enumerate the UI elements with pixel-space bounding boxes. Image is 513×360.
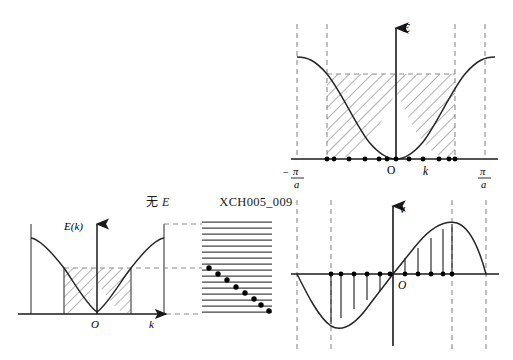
axis-label-k: k (423, 165, 429, 177)
drop-lines-negative (331, 274, 380, 324)
pi-numerator: π (480, 166, 486, 177)
origin-label-O: O (387, 164, 395, 176)
axis-label-E: E (402, 22, 410, 34)
panel-group-velocity: v O (283, 196, 509, 356)
occupied-region-hatch (327, 74, 455, 159)
origin-label-O: O (398, 279, 407, 291)
minus-sign: − (283, 167, 289, 178)
panel-band-and-level-ladder: E(k) O k (6, 206, 278, 356)
axis-label-v: v (400, 203, 406, 215)
level-ladder (202, 222, 272, 312)
drop-lines-positive (405, 224, 452, 274)
x-tick-left-neg-pi-over-a: − π a (283, 166, 304, 190)
panel-energy-band-no-field: E O k − π a π a (283, 4, 509, 188)
axis-label-k: k (149, 318, 155, 330)
a-denominator: a (294, 179, 299, 190)
a-denominator: a (481, 179, 486, 190)
pi-numerator: π (293, 166, 299, 177)
axis-label-Ek: E(k) (63, 220, 83, 233)
x-tick-right-pi-over-a: π a (478, 166, 491, 190)
origin-label-O: O (91, 318, 99, 330)
